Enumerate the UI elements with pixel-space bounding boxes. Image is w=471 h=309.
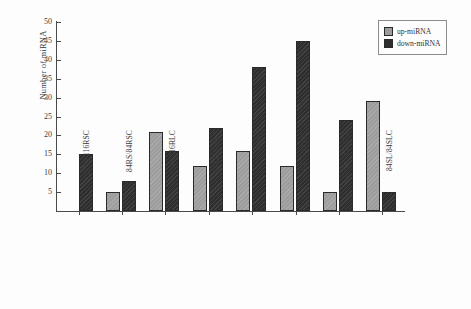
y-tick-label: 35 [30, 75, 52, 83]
y-tick-label: 30 [30, 94, 52, 102]
bar [106, 192, 120, 211]
legend-swatch-down-icon [384, 39, 393, 48]
x-tick-label: 84SS/84SSC [299, 130, 308, 216]
y-tick-label: 40 [30, 56, 52, 64]
legend-label-up: up-miRNA [397, 27, 431, 36]
legend-label-down: down-miRNA [397, 39, 440, 48]
plot-area [57, 22, 404, 211]
x-tick-label: 116SL/116SLC [342, 130, 351, 216]
y-tick-label: 5 [30, 188, 52, 196]
x-tick-label: 116SS/116SSC [255, 130, 264, 216]
bar [193, 166, 207, 211]
x-tick [209, 212, 210, 215]
y-tick [57, 211, 61, 212]
x-tick [252, 212, 253, 215]
x-tick [122, 212, 123, 215]
x-tick-label: 84SL/84SLC [385, 130, 394, 216]
legend-item-down: down-miRNA [384, 38, 440, 49]
bar [366, 101, 380, 211]
x-tick [339, 212, 340, 215]
y-tick-label: 45 [30, 37, 52, 45]
legend-swatch-up-icon [384, 27, 393, 36]
y-tick-label: 50 [30, 18, 52, 26]
x-tick [79, 212, 80, 215]
x-tick-label: 116RS/116RLC [168, 130, 177, 216]
bar [280, 166, 294, 211]
chart-legend: up-miRNA down-miRNA [378, 20, 447, 55]
x-tick [382, 212, 383, 215]
x-axis-line [56, 211, 405, 212]
x-tick-label: 116RS/116RSC [82, 130, 91, 216]
y-tick-label: 25 [30, 113, 52, 121]
bar [323, 192, 337, 211]
bar [149, 132, 163, 211]
bar-chart-figure: Number of miRNA 5101520253035404550 116R… [0, 0, 471, 309]
legend-item-up: up-miRNA [384, 26, 440, 37]
x-tick-label: 84RS/84RSC [125, 130, 134, 216]
y-tick-label: 15 [30, 150, 52, 158]
x-tick-label: 84RL/84RLC [212, 130, 221, 216]
x-tick [296, 212, 297, 215]
y-tick-label: 20 [30, 131, 52, 139]
x-tick [165, 212, 166, 215]
y-tick-label: 10 [30, 169, 52, 177]
bar [236, 151, 250, 211]
